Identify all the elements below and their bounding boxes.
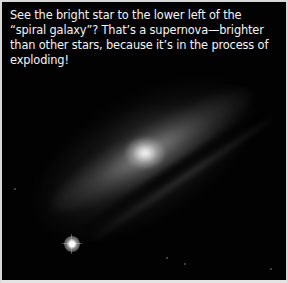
faint-star [184,263,186,265]
supernova-star [64,236,80,252]
galaxy-photo-frame: See the bright star to the lower left of… [0,0,288,283]
faint-star [270,268,272,270]
faint-star [14,188,16,190]
faint-star [166,257,168,259]
galaxy-core [126,138,164,168]
figure-caption: See the bright star to the lower left of… [10,8,280,68]
